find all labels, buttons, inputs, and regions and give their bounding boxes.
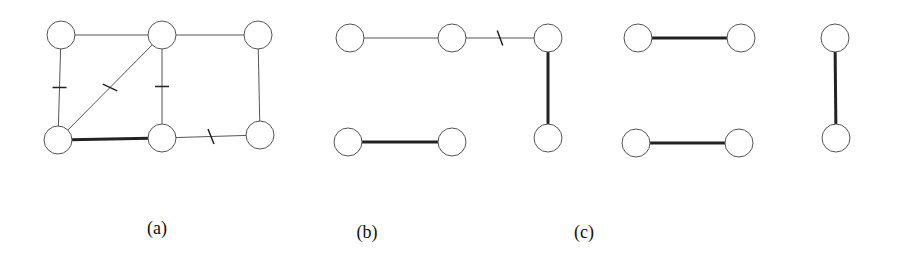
graph-node bbox=[725, 129, 753, 157]
graph-node bbox=[624, 24, 652, 52]
panel-b bbox=[334, 24, 562, 156]
graph-node bbox=[534, 124, 562, 152]
panel-label-a: (a) bbox=[147, 218, 167, 239]
panel-label-b: (b) bbox=[357, 222, 378, 243]
graph-node bbox=[821, 24, 849, 52]
graph-node bbox=[438, 128, 466, 156]
panel-c bbox=[622, 24, 850, 157]
panel-label-c: (c) bbox=[574, 222, 594, 243]
edge-tick-mark bbox=[103, 84, 118, 91]
edge bbox=[258, 35, 260, 135]
panel-a bbox=[44, 21, 274, 154]
matched-edge bbox=[58, 138, 162, 140]
graph-node bbox=[246, 121, 274, 149]
graph-node bbox=[822, 124, 850, 152]
graph-node bbox=[534, 24, 562, 52]
graph-node bbox=[336, 24, 364, 52]
graph-node bbox=[148, 124, 176, 152]
graph-node bbox=[334, 128, 362, 156]
matched-edge bbox=[835, 38, 836, 138]
graph-node bbox=[622, 129, 650, 157]
graph-diagram bbox=[0, 0, 900, 271]
graph-node bbox=[727, 24, 755, 52]
graph-node bbox=[148, 21, 176, 49]
graph-node bbox=[244, 21, 272, 49]
graph-node bbox=[44, 126, 72, 154]
graph-node bbox=[47, 21, 75, 49]
graph-node bbox=[438, 24, 466, 52]
